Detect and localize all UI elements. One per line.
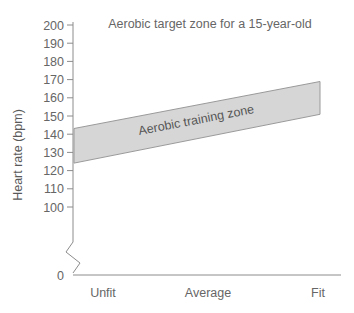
y-tick-label: 150 [43, 110, 64, 124]
y-tick-label: 200 [43, 19, 64, 33]
x-tick-label-average: Average [185, 286, 231, 300]
chart-container: Aerobic target zone for a 15-year-old He… [0, 0, 354, 313]
y-tick-label: 100 [43, 201, 64, 215]
y-axis-title: Heart rate (bpm) [11, 109, 25, 201]
y-tick-label: 180 [43, 55, 64, 69]
y-tick-label: 160 [43, 91, 64, 105]
y-tick-label: 140 [43, 128, 64, 142]
y-tick-label: 130 [43, 146, 64, 160]
x-tick-label-unfit: Unfit [90, 286, 116, 300]
y-tick-label: 170 [43, 73, 64, 87]
aerobic-target-zone-chart: Aerobic target zone for a 15-year-old He… [0, 0, 354, 313]
y-tick-label: 190 [43, 37, 64, 51]
y-tick-label: 120 [43, 164, 64, 178]
y-origin-label: 0 [57, 269, 64, 283]
chart-title: Aerobic target zone for a 15-year-old [108, 17, 312, 31]
x-tick-label-fit: Fit [311, 286, 325, 300]
y-tick-label: 110 [44, 182, 64, 196]
